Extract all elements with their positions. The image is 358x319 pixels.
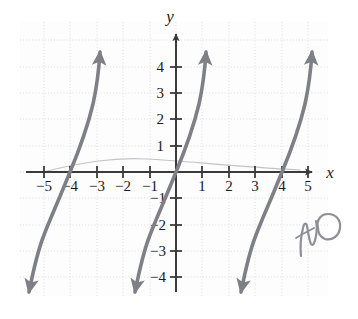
x-tick-label-1: 1 — [198, 178, 206, 194]
x-tick-label-2: 2 — [225, 178, 233, 194]
x-tick-label-neg5: −5 — [36, 178, 52, 194]
y-axis-label: y — [164, 7, 174, 26]
y-tick-label-1: 1 — [157, 138, 165, 154]
x-tick-label-neg3: −3 — [89, 178, 105, 194]
x-tick-label-neg2: −2 — [115, 178, 131, 194]
y-tick-label-2: 2 — [157, 111, 165, 127]
y-tick-label-4: 4 — [157, 59, 165, 75]
x-axis-label: x — [325, 163, 334, 182]
y-tick-label-neg3: −3 — [150, 243, 166, 259]
x-tick-label-5: 5 — [304, 178, 312, 194]
graph-screenshot: −5 −4 −3 −2 −1 1 2 3 4 5 4 3 2 1 −1 −2 −… — [0, 0, 358, 319]
y-tick-label-3: 3 — [157, 85, 165, 101]
coordinate-plot: −5 −4 −3 −2 −1 1 2 3 4 5 4 3 2 1 −1 −2 −… — [0, 0, 358, 319]
x-tick-label-3: 3 — [251, 178, 259, 194]
y-tick-label-neg4: −4 — [150, 269, 166, 285]
